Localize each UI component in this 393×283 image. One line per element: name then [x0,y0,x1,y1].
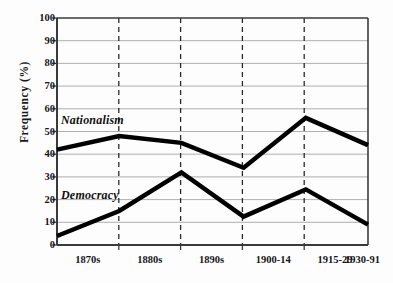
plot-area [0,0,393,283]
x-tick-label-1900-14: 1900-14 [242,254,304,265]
x-tick-label-1890s: 1890s [181,254,243,265]
x-tick-label-1880s: 1880s [119,254,181,265]
series-line-democracy [57,172,368,236]
y-tick-label-80: 80 [29,58,55,68]
series-label-nationalism: Nationalism [61,113,124,128]
y-tick-label-90: 90 [29,36,55,46]
y-tick-label-20: 20 [29,195,55,205]
y-tick-label-50: 50 [29,127,55,137]
y-tick-label-0: 0 [29,240,55,250]
x-tick-label-1930-91: 1930-91 [332,254,393,265]
x-tick-label-1870s: 1870s [57,254,119,265]
y-tick-label-70: 70 [29,81,55,91]
series-label-democracy: Democracy [61,188,119,203]
chart-figure: Frequency (%) 100 90 80 70 60 50 40 30 2… [0,0,393,283]
y-tick-label-10: 10 [29,217,55,227]
y-tick-label-100: 100 [29,13,55,23]
y-tick-label-40: 40 [29,149,55,159]
y-tick-label-30: 30 [29,172,55,182]
y-tick-label-60: 60 [29,104,55,114]
